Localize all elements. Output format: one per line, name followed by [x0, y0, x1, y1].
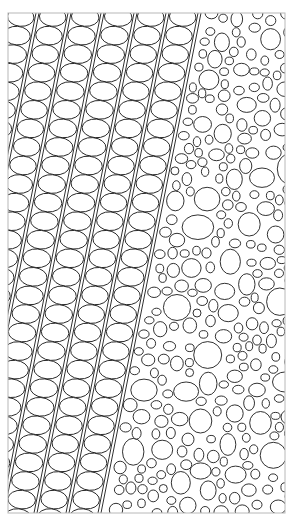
- oval-cell: [63, 378, 91, 399]
- foam-cell: [189, 409, 212, 433]
- foam-cell: [198, 158, 207, 167]
- foam-cell: [261, 56, 269, 65]
- foam-cell: [271, 412, 280, 419]
- foam-cell: [244, 396, 255, 411]
- foam-cell: [274, 245, 284, 254]
- foam-cell: [283, 185, 293, 195]
- oval-cell: [98, 359, 126, 380]
- foam-cell: [174, 382, 199, 401]
- foam-cell: [253, 335, 262, 345]
- foam-cell: [182, 173, 192, 186]
- oval-cell: [33, 359, 62, 380]
- oval-cell: [100, 192, 128, 213]
- foam-cell: [155, 415, 168, 427]
- foam-cell: [170, 322, 179, 330]
- oval-cell: [74, 155, 103, 176]
- oval-cell: [85, 99, 114, 120]
- foam-cell: [154, 322, 167, 337]
- foam-cell: [148, 490, 159, 502]
- foam-cell: [285, 492, 293, 502]
- oval-cell: [103, 174, 131, 195]
- foam-cell: [275, 195, 283, 205]
- foam-cell: [216, 104, 227, 115]
- foam-cell: [215, 396, 227, 405]
- oval-cell: [106, 322, 134, 343]
- foam-cell: [166, 427, 175, 438]
- oval-cell: [66, 359, 94, 380]
- oval-cell: [20, 99, 48, 120]
- foam-cell: [151, 401, 162, 409]
- foam-cell: [238, 213, 260, 236]
- foam-cell: [123, 501, 132, 509]
- oval-cell: [59, 396, 87, 417]
- foam-cell: [242, 433, 250, 442]
- foam-cell: [270, 98, 280, 112]
- foam-cell: [202, 248, 211, 258]
- foam-cell: [152, 440, 173, 459]
- oval-cell: [51, 434, 79, 455]
- foam-cell: [261, 129, 271, 140]
- oval-cell: [0, 471, 7, 492]
- foam-cell: [145, 317, 154, 324]
- foam-cell: [218, 305, 238, 322]
- foam-cell: [193, 246, 201, 255]
- oval-cell: [19, 266, 48, 287]
- foam-cell: [189, 83, 196, 92]
- foam-cell: [253, 270, 262, 278]
- foam-cell: [201, 167, 208, 176]
- oval-cell: [76, 471, 104, 492]
- oval-cell: [111, 137, 139, 158]
- foam-cell: [171, 472, 190, 495]
- foam-cell: [188, 289, 197, 296]
- foam-cell: [181, 460, 192, 470]
- foam-cell: [186, 187, 194, 196]
- foam-cell: [243, 462, 253, 470]
- oval-cell: [0, 118, 12, 139]
- oval-cell: [91, 396, 119, 417]
- foam-cell: [238, 133, 252, 144]
- foam-cell: [253, 9, 263, 19]
- foam-cell: [221, 80, 228, 89]
- oval-cell: [0, 434, 14, 455]
- foam-cell: [214, 33, 229, 52]
- foam-cell: [219, 163, 227, 171]
- oval-cell: [109, 304, 137, 325]
- oval-cell: [3, 25, 31, 46]
- foam-cell: [223, 200, 234, 210]
- oval-cell: [169, 7, 197, 28]
- foam-cell: [257, 94, 269, 103]
- foam-cell: [209, 149, 225, 161]
- foam-cell: [258, 244, 267, 251]
- foam-cell: [164, 404, 173, 414]
- oval-cell: [0, 359, 29, 380]
- foam-cell: [287, 336, 293, 348]
- oval-cell: [0, 137, 9, 158]
- oval-cell: [74, 322, 102, 343]
- foam-cell: [249, 83, 259, 91]
- foam-cell: [120, 423, 131, 432]
- foam-cell: [175, 154, 187, 164]
- oval-cell: [154, 81, 182, 102]
- oval-cell: [7, 489, 36, 510]
- foam-cell: [178, 132, 189, 140]
- foam-cell: [150, 368, 158, 378]
- foam-cell: [194, 117, 212, 133]
- oval-cell: [129, 44, 157, 65]
- foam-cell: [169, 233, 184, 247]
- foam-cell: [229, 47, 238, 56]
- foam-cell: [275, 51, 284, 59]
- foam-cell: [147, 339, 156, 349]
- foam-cell: [233, 385, 244, 394]
- oval-cell: [114, 118, 142, 139]
- oval-cell: [37, 174, 66, 195]
- foam-cell: [163, 390, 173, 398]
- oval-cell: [146, 118, 174, 139]
- foam-cell: [183, 118, 193, 125]
- oval-cell: [78, 137, 107, 158]
- foam-cell: [171, 356, 184, 371]
- foam-cell: [250, 68, 259, 75]
- foam-cell: [184, 143, 193, 153]
- oval-cell: [0, 229, 22, 250]
- foam-cell: [267, 226, 284, 243]
- oval-cell: [107, 155, 135, 176]
